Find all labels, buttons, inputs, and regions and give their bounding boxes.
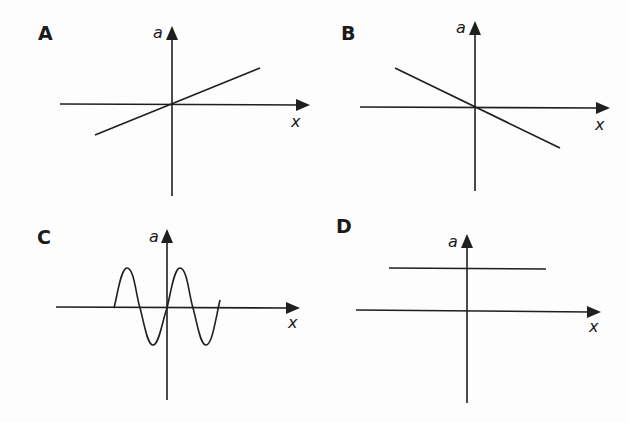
panel-a: A a x bbox=[38, 22, 310, 196]
figure-canvas: A a x B a x C a x D a x bbox=[0, 0, 628, 422]
x-axis-label-c: x bbox=[287, 313, 298, 332]
x-axis-label-b: x bbox=[594, 115, 605, 134]
y-axis-label-a: a bbox=[153, 23, 163, 42]
panel-label-d: D bbox=[336, 215, 352, 237]
graph-line-d bbox=[389, 268, 546, 269]
y-axis-arrow-icon bbox=[469, 21, 481, 35]
panel-label-c: C bbox=[37, 226, 51, 248]
graph-line-a bbox=[95, 68, 260, 135]
x-axis-c bbox=[56, 307, 290, 308]
y-axis-label-b: a bbox=[456, 18, 466, 37]
x-axis-label-a: x bbox=[290, 112, 301, 131]
x-axis-b bbox=[360, 107, 600, 108]
panel-label-b: B bbox=[341, 22, 355, 44]
y-axis-arrow-icon bbox=[166, 26, 178, 40]
panel-b: B a x bbox=[341, 18, 610, 191]
x-axis-a bbox=[60, 104, 300, 105]
x-axis-arrow-icon bbox=[596, 102, 610, 114]
panel-d: D a x bbox=[336, 215, 601, 403]
y-axis-label-c: a bbox=[149, 227, 159, 246]
x-axis-arrow-icon bbox=[296, 99, 310, 111]
y-axis-label-d: a bbox=[448, 232, 458, 251]
panel-c: C a x bbox=[37, 226, 300, 400]
x-axis-d bbox=[356, 310, 590, 312]
panel-label-a: A bbox=[38, 22, 53, 44]
y-axis-arrow-icon bbox=[461, 234, 473, 248]
x-axis-label-d: x bbox=[588, 317, 599, 336]
y-axis-arrow-icon bbox=[161, 229, 173, 243]
